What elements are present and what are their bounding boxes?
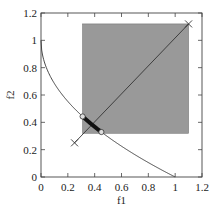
x-tick-label: 1.2 <box>195 181 209 193</box>
x-tick-label: 0.2 <box>61 181 75 193</box>
x-tick-label: 1 <box>172 181 178 193</box>
y-tick-label: 1.2 <box>23 7 37 19</box>
plot-area: 00.20.40.60.811.200.20.40.60.811.2f1f2 <box>4 7 209 206</box>
y-axis-label: f2 <box>4 90 16 99</box>
y-tick-label: 0.2 <box>23 144 37 156</box>
chart: 00.20.40.60.811.200.20.40.60.811.2f1f2 <box>0 0 221 219</box>
x-marker-icon <box>71 139 78 146</box>
y-tick-label: 0.4 <box>23 116 37 128</box>
x-tick-label: 0.8 <box>141 181 155 193</box>
x-tick-label: 0.6 <box>115 181 129 193</box>
segment-endpoint-marker <box>80 114 85 119</box>
y-tick-label: 0.6 <box>23 89 37 101</box>
y-tick-label: 0.8 <box>23 62 37 74</box>
x-tick-label: 0.4 <box>88 181 102 193</box>
x-axis-label: f1 <box>117 194 126 206</box>
y-tick-label: 1 <box>32 34 38 46</box>
x-tick-label: 0 <box>38 181 44 193</box>
y-tick-label: 0 <box>32 171 38 183</box>
segment-endpoint-marker <box>99 129 104 134</box>
